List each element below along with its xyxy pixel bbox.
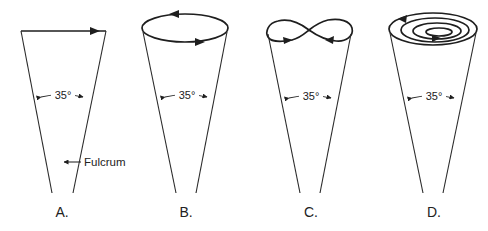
cone-right-edge [443, 33, 476, 193]
cone-left-edge [390, 33, 423, 193]
spiral-core-ring [426, 28, 452, 36]
direction-arrow-icon [283, 37, 293, 44]
panel-label-d: D. [427, 204, 441, 220]
panel-d: 35° D. [389, 13, 477, 220]
angle-label: 35° [179, 89, 196, 101]
circular-orbit-path [142, 14, 228, 42]
cone-right-edge [320, 34, 351, 193]
cone-left-edge [143, 32, 176, 193]
cone-left-edge [268, 34, 300, 193]
angle-label: 35° [426, 90, 443, 102]
direction-arrow-icon [169, 10, 179, 18]
angle-label: 35° [303, 90, 320, 102]
cone-right-edge [73, 31, 106, 193]
panel-label-a: A. [55, 204, 68, 220]
cone-left-edge [21, 31, 52, 193]
angle-label: 35° [55, 89, 72, 101]
direction-arrow-icon [195, 38, 205, 46]
panel-c: 35° C. [267, 19, 352, 220]
panel-a: 35° Fulcrum A. [21, 27, 126, 220]
cone-right-edge [196, 32, 227, 193]
panel-b: 35° B. [142, 10, 228, 220]
direction-arrow-icon [90, 27, 100, 35]
direction-arrow-icon [325, 36, 334, 44]
fulcrum-label: Fulcrum [84, 156, 126, 168]
panel-label-b: B. [179, 204, 192, 220]
direction-arrow-icon [398, 15, 407, 23]
figure-eight-path [267, 19, 352, 41]
cone-motion-diagram: 35° Fulcrum A. 35° B. 35° C. [0, 0, 488, 231]
panel-label-c: C. [304, 204, 318, 220]
